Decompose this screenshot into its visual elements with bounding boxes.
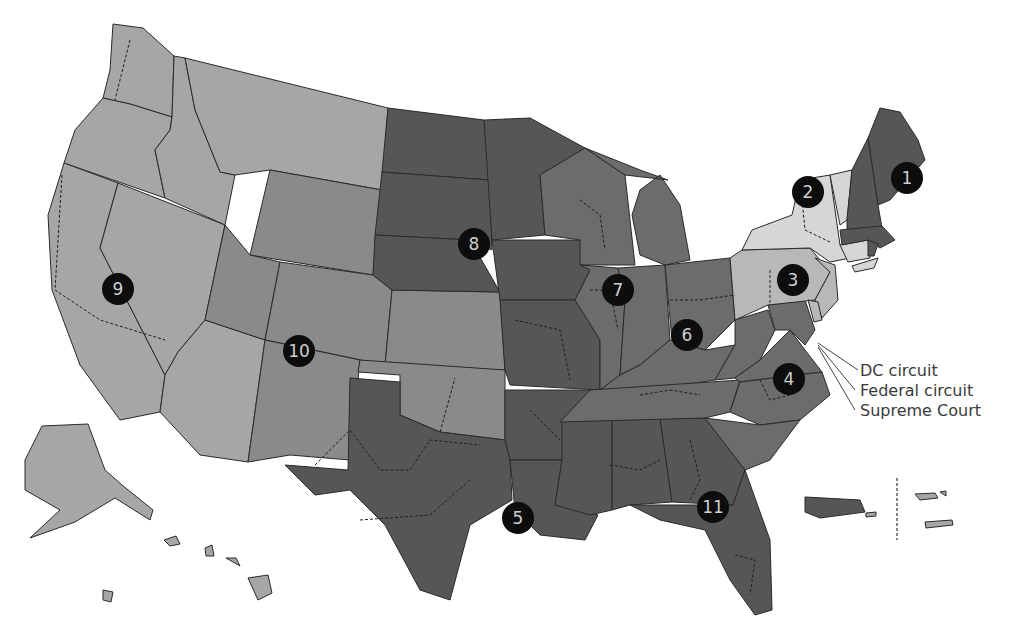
circuit-marker-2[interactable]: 2: [792, 176, 824, 208]
svg-text:4: 4: [784, 369, 795, 389]
circuit-marker-4[interactable]: 4: [773, 363, 805, 395]
state-mississippi[interactable]: [555, 420, 612, 515]
circuit-marker-3[interactable]: 3: [777, 264, 809, 296]
svg-text:3: 3: [788, 270, 799, 290]
state-alaska[interactable]: [25, 424, 153, 538]
svg-text:1: 1: [902, 168, 913, 188]
svg-text:10: 10: [288, 341, 310, 361]
state-north-dakota[interactable]: [382, 108, 490, 180]
state-kansas[interactable]: [385, 290, 505, 370]
svg-text:2: 2: [803, 182, 814, 202]
circuit-marker-9[interactable]: 9: [102, 273, 134, 305]
circuit-marker-1[interactable]: 1: [891, 162, 923, 194]
svg-text:6: 6: [682, 325, 693, 345]
territory-puerto-rico[interactable]: [805, 497, 865, 518]
state-hawaii[interactable]: [103, 536, 272, 602]
svg-text:8: 8: [469, 234, 480, 254]
circuit-marker-7[interactable]: 7: [602, 274, 634, 306]
circuit-marker-8[interactable]: 8: [458, 228, 490, 260]
svg-text:5: 5: [513, 508, 524, 528]
state-iowa[interactable]: [492, 240, 590, 300]
circuit-marker-6[interactable]: 6: [671, 319, 703, 351]
circuit-marker-10[interactable]: 10: [283, 335, 315, 367]
circuit-marker-5[interactable]: 5: [502, 502, 534, 534]
virgin-islands-region[interactable]: [866, 491, 953, 528]
circuit-map: 1 2 3 4 5 6 7 8 9 10 11: [0, 0, 1015, 631]
svg-text:11: 11: [702, 497, 724, 517]
callout-dc-circuit[interactable]: DC circuit: [860, 361, 938, 380]
svg-text:9: 9: [113, 279, 124, 299]
circuit-marker-11[interactable]: 11: [697, 491, 729, 523]
callout-supreme-court[interactable]: Supreme Court: [860, 401, 981, 420]
svg-text:7: 7: [613, 280, 624, 300]
callout-federal-circuit[interactable]: Federal circuit: [860, 381, 973, 400]
